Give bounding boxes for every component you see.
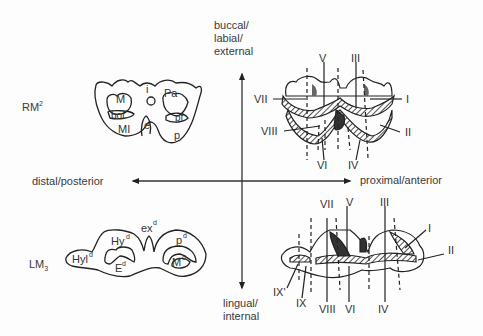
svg-text:V: V xyxy=(346,196,354,208)
svg-text:IV: IV xyxy=(348,159,359,171)
svg-text:I: I xyxy=(428,222,431,234)
svg-text:VII: VII xyxy=(254,93,267,105)
svg-text:VIII: VIII xyxy=(319,303,336,315)
svg-text:Hyl: Hyl xyxy=(72,253,88,265)
upper-occlusal-labels: M i Pa bof pf MI e p xyxy=(111,83,184,141)
svg-text:M: M xyxy=(116,93,125,105)
svg-text:d: d xyxy=(153,219,157,226)
upper-molar-lateral-view xyxy=(273,62,402,160)
svg-text:I: I xyxy=(406,93,409,105)
svg-text:i: i xyxy=(146,83,148,95)
svg-text:e: e xyxy=(144,119,150,131)
svg-text:d: d xyxy=(126,233,130,240)
svg-text:Pa: Pa xyxy=(164,87,178,99)
svg-text:VIII: VIII xyxy=(261,125,278,137)
svg-text:d: d xyxy=(122,260,126,267)
svg-text:p: p xyxy=(174,129,180,141)
svg-text:VII: VII xyxy=(320,198,333,210)
svg-text:d: d xyxy=(182,254,186,261)
axis-label-buccal: buccal/ labial/ external xyxy=(214,19,253,58)
axis-label-proximal: proximal/anterior xyxy=(360,174,442,187)
lower-tooth-name: LM3 xyxy=(29,258,48,275)
svg-text:IV: IV xyxy=(378,303,389,315)
svg-text:III: III xyxy=(351,52,360,64)
svg-text:MI: MI xyxy=(118,123,130,135)
svg-text:pf: pf xyxy=(175,112,184,123)
lower-molar-lateral-view xyxy=(281,206,444,302)
svg-text:bof: bof xyxy=(111,110,125,121)
svg-text:II: II xyxy=(405,126,411,138)
svg-text:II: II xyxy=(448,244,454,256)
svg-text:IX': IX' xyxy=(273,286,286,298)
svg-text:Hy: Hy xyxy=(111,235,125,247)
lower-occlusal-labels: ex d Hy d p d Hyl d E d M d xyxy=(72,219,187,274)
dental-orientation-diagram: V III VII I VIII II VI IV VII V III I II… xyxy=(0,0,483,336)
svg-text:VI: VI xyxy=(317,159,327,171)
svg-text:ex: ex xyxy=(141,222,153,234)
svg-text:d: d xyxy=(89,251,93,258)
svg-text:III: III xyxy=(380,196,389,208)
svg-text:d: d xyxy=(183,232,187,239)
svg-text:IX: IX xyxy=(296,297,307,309)
axis-label-distal: distal/posterior xyxy=(32,175,104,188)
svg-text:VI: VI xyxy=(345,303,355,315)
axis-label-lingual: lingual/ internal xyxy=(223,297,259,323)
svg-text:V: V xyxy=(319,52,327,64)
svg-text:M: M xyxy=(172,256,181,268)
svg-text:p: p xyxy=(176,234,182,246)
upper-tooth-name: RM2 xyxy=(22,97,43,114)
